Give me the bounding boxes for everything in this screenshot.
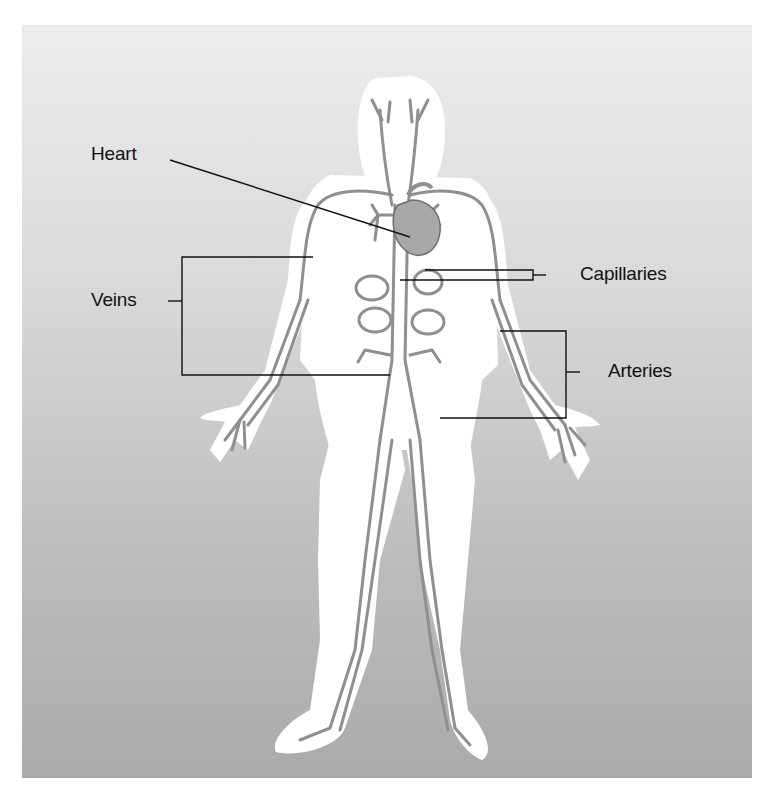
capillaries-label: Capillaries	[580, 263, 667, 285]
veins-label: Veins	[91, 289, 136, 311]
arteries-label: Arteries	[608, 360, 672, 382]
body-illustration	[0, 0, 758, 797]
heart-label: Heart	[91, 143, 136, 165]
